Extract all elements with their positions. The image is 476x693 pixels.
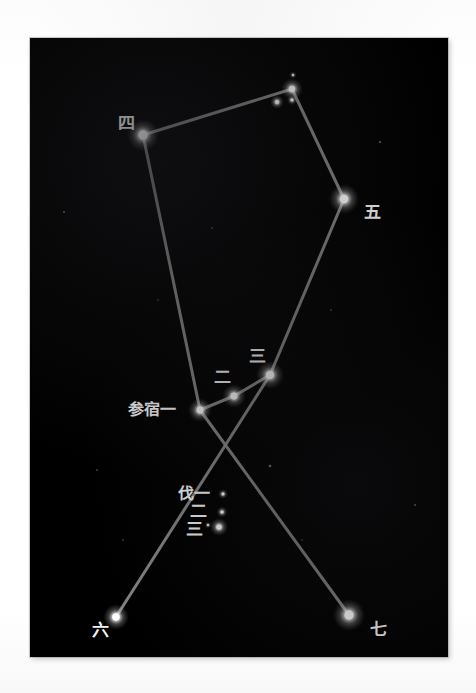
star-core xyxy=(344,610,353,619)
star-marker[interactable] xyxy=(287,95,297,105)
star-core xyxy=(231,393,238,400)
star-core xyxy=(266,371,274,379)
star-marker[interactable] xyxy=(205,522,211,528)
star-chart-panel: 四五三二参宿一伐一二三六七 xyxy=(30,38,448,657)
page-canvas: 四五三二参宿一伐一二三六七 xyxy=(0,0,476,693)
star-label-伐一: 伐一 xyxy=(178,484,210,503)
named-star-layer xyxy=(103,72,365,632)
background-star xyxy=(379,141,381,143)
constellation-line xyxy=(143,135,200,410)
star-core xyxy=(207,524,209,526)
star-label-七: 七 xyxy=(370,620,387,640)
star-core xyxy=(138,130,147,139)
constellation-line xyxy=(292,89,344,199)
star-marker[interactable] xyxy=(218,489,228,499)
star-core xyxy=(291,99,294,102)
star-core xyxy=(275,100,279,104)
star-marker[interactable] xyxy=(216,506,227,517)
star-marker[interactable] xyxy=(290,72,297,79)
background-star-layer xyxy=(63,141,416,541)
star-label-二: 二 xyxy=(214,368,231,388)
star-core xyxy=(292,74,294,76)
star-marker[interactable] xyxy=(188,398,212,422)
constellation-line xyxy=(270,199,344,375)
star-core xyxy=(112,613,119,620)
background-star xyxy=(96,469,98,471)
star-label-六: 六 xyxy=(92,621,109,641)
background-star xyxy=(122,539,123,540)
background-star xyxy=(330,309,332,311)
star-label-伐二: 二 xyxy=(190,502,207,522)
background-star xyxy=(211,227,213,229)
background-star xyxy=(269,465,272,468)
constellation-line xyxy=(143,89,292,135)
star-core xyxy=(222,493,225,496)
background-star xyxy=(414,504,416,506)
star-core xyxy=(340,195,349,204)
star-marker[interactable] xyxy=(329,184,359,214)
star-core xyxy=(197,407,204,414)
star-label-五: 五 xyxy=(364,203,381,223)
star-core xyxy=(289,86,295,92)
star-chart-svg: 四五三二参宿一伐一二三六七 xyxy=(30,38,448,657)
star-label-三: 三 xyxy=(249,347,266,367)
star-marker[interactable] xyxy=(333,599,365,631)
star-marker[interactable] xyxy=(210,518,228,536)
background-star xyxy=(63,211,65,213)
background-star xyxy=(157,299,158,300)
star-core xyxy=(220,510,223,513)
star-marker[interactable] xyxy=(270,95,284,109)
constellation-line-layer xyxy=(116,89,349,617)
background-star xyxy=(301,539,302,540)
star-core xyxy=(216,524,221,529)
star-label-四: 四 xyxy=(118,114,135,134)
star-label-伐三: 三 xyxy=(186,520,203,540)
star-label-参宿一: 参宿一 xyxy=(128,400,176,419)
